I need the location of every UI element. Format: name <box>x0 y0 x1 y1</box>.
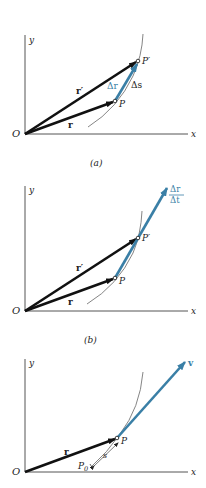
P-label: P <box>120 436 128 446</box>
delta-r-over-delta-t-label: Δr Δt <box>169 184 184 205</box>
y-axis-label: y <box>28 358 35 368</box>
panel-a: y x O r r′ P P′ Δr Δs (a) <box>12 34 196 168</box>
s-label: s <box>103 451 107 460</box>
y-axis-label: y <box>28 35 35 45</box>
r-prime-label: r′ <box>76 86 84 96</box>
path-curve <box>87 211 142 304</box>
x-axis-label: x <box>191 467 196 477</box>
P0-label: P0 <box>77 461 88 473</box>
origin-label: O <box>12 466 20 477</box>
panel-caption: (a) <box>90 158 103 168</box>
point-P <box>113 99 117 103</box>
r-label: r <box>64 447 69 457</box>
P-prime-label: P′ <box>141 56 150 66</box>
origin-label: O <box>12 128 20 139</box>
point-P <box>115 436 119 440</box>
origin-label: O <box>12 305 20 316</box>
r-prime-label: r′ <box>76 263 84 273</box>
P-label: P <box>118 99 126 109</box>
panel-c: y x O r P P0 s v <box>12 358 196 477</box>
x-axis-label: x <box>191 129 196 139</box>
delta-s-label: Δs <box>131 80 142 90</box>
velocity-vector <box>117 362 185 438</box>
s-dimension-tick <box>90 464 93 469</box>
P0-subscript: 0 <box>84 465 88 473</box>
delta-r-over-delta-t-vector <box>115 188 167 278</box>
point-P <box>113 276 117 280</box>
delta-r-label: Δr <box>107 81 118 91</box>
panel-b: y x O r r′ P P′ Δr Δt (b) <box>12 184 196 345</box>
P-prime-label: P′ <box>141 233 150 243</box>
P-label: P <box>118 276 126 286</box>
v-label: v <box>187 358 194 368</box>
r-label: r <box>68 297 73 307</box>
fraction-denominator: Δt <box>170 195 180 205</box>
x-axis-label: x <box>191 306 196 316</box>
path-curve <box>90 372 143 468</box>
y-axis-label: y <box>28 185 35 195</box>
fraction-numerator: Δr <box>170 184 181 194</box>
r-vector <box>25 439 115 472</box>
point-P-prime <box>136 59 140 63</box>
kinematics-figure: y x O r r′ P P′ Δr Δs (a) y x O r r′ P P… <box>0 0 206 488</box>
r-label: r <box>68 120 73 130</box>
panel-caption: (b) <box>84 335 97 345</box>
point-P-prime <box>136 236 140 240</box>
